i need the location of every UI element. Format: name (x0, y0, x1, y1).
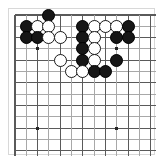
go-diagram-figure (0, 0, 161, 161)
black-stone[interactable] (99, 65, 112, 78)
go-board[interactable] (8, 8, 155, 155)
hoshi-point (36, 127, 39, 130)
white-stone[interactable] (54, 54, 67, 67)
hoshi-point (36, 47, 39, 50)
hoshi-point (115, 47, 118, 50)
black-stone[interactable] (122, 31, 135, 44)
black-stone[interactable] (110, 54, 123, 67)
hoshi-point (115, 127, 118, 130)
white-stone[interactable] (54, 31, 67, 44)
